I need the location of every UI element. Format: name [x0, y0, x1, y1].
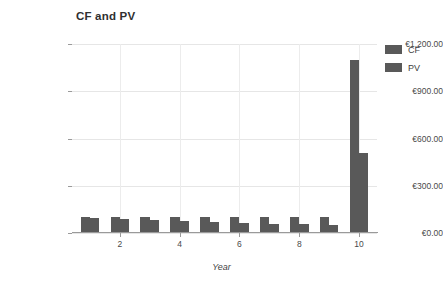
- x-tick-mark: [120, 233, 121, 237]
- y-tick-mark: [68, 233, 72, 234]
- y-tick-mark: [68, 186, 72, 187]
- bar-cf-year-9: [320, 217, 329, 233]
- y-gridline: [72, 186, 377, 187]
- x-tick-label: 4: [177, 239, 182, 249]
- x-gridline: [239, 44, 240, 233]
- y-tick-label: €600.00: [377, 134, 443, 144]
- x-tick-label: 8: [297, 239, 302, 249]
- x-tick-mark: [180, 233, 181, 237]
- bar-pv-year-2: [120, 219, 129, 233]
- x-tick-mark: [359, 233, 360, 237]
- bar-cf-year-1: [81, 217, 90, 233]
- legend-item-pv[interactable]: PV: [385, 60, 420, 75]
- bar-cf-year-7: [260, 217, 269, 233]
- chart-container: CF and PV Year CFPV €0.00€300.00€600.00€…: [0, 0, 443, 291]
- x-gridline: [120, 44, 121, 233]
- y-gridline: [72, 233, 377, 234]
- y-tick-mark: [68, 44, 72, 45]
- legend-label: PV: [408, 63, 420, 73]
- y-tick-label: €0.00: [377, 228, 443, 238]
- bar-cf-year-2: [111, 217, 120, 233]
- x-tick-label: 2: [117, 239, 122, 249]
- y-axis: [0, 0, 68, 291]
- legend-swatch-icon: [385, 63, 402, 72]
- y-gridline: [72, 44, 377, 45]
- x-axis-title: Year: [0, 262, 443, 272]
- bar-cf-year-5: [200, 217, 209, 233]
- x-tick-label: 10: [354, 239, 363, 249]
- y-gridline: [72, 91, 377, 92]
- x-gridline: [180, 44, 181, 233]
- y-tick-label: €900.00: [377, 86, 443, 96]
- x-tick-mark: [239, 233, 240, 237]
- y-tick-label: €300.00: [377, 181, 443, 191]
- bar-pv-year-1: [90, 218, 99, 233]
- x-tick-mark: [299, 233, 300, 237]
- x-axis-line: [72, 232, 378, 233]
- bar-cf-year-3: [140, 217, 149, 233]
- x-tick-label: 6: [237, 239, 242, 249]
- y-tick-mark: [68, 91, 72, 92]
- chart-title: CF and PV: [76, 10, 135, 22]
- x-gridline: [299, 44, 300, 233]
- y-gridline: [72, 139, 377, 140]
- bar-cf-year-4: [170, 217, 179, 233]
- y-tick-mark: [68, 139, 72, 140]
- bar-pv-year-10: [359, 153, 368, 233]
- bar-cf-year-6: [230, 217, 239, 233]
- y-tick-label: €1,200.00: [377, 39, 443, 49]
- plot-area: [72, 44, 377, 233]
- bar-cf-year-10: [350, 60, 359, 233]
- bar-cf-year-8: [290, 217, 299, 233]
